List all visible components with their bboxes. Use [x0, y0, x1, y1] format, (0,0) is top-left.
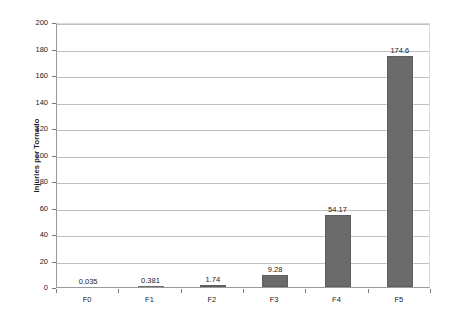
- gridline: [57, 210, 429, 211]
- gridline: [57, 51, 429, 52]
- plot-area: 0.0350.3811.749.2854.17174.6: [56, 23, 430, 288]
- gridline: [57, 24, 429, 25]
- data-label: 54.17: [328, 205, 347, 214]
- y-axis-tick-label: 80: [20, 177, 48, 186]
- y-axis-tick-label: 0: [20, 283, 48, 292]
- y-axis-tick-label: 40: [20, 230, 48, 239]
- gridline: [57, 130, 429, 131]
- x-axis-tick-label: F0: [83, 295, 92, 304]
- y-axis-tick-label: 200: [20, 18, 48, 27]
- y-axis-tick-label: 60: [20, 204, 48, 213]
- gridline: [57, 104, 429, 105]
- data-label: 0.035: [79, 277, 98, 286]
- x-axis-tick-mark: [368, 289, 369, 293]
- bar[interactable]: [325, 215, 351, 287]
- gridline: [57, 236, 429, 237]
- x-axis-tick-label: F2: [207, 295, 216, 304]
- bar[interactable]: [262, 275, 288, 287]
- y-axis-tick-label: 100: [20, 151, 48, 160]
- data-label: 9.28: [268, 265, 283, 274]
- y-axis-tick-label: 160: [20, 71, 48, 80]
- x-axis-tick-label: F4: [332, 295, 341, 304]
- y-axis-tick-label: 20: [20, 257, 48, 266]
- gridline: [57, 157, 429, 158]
- x-axis-tick-mark: [243, 289, 244, 293]
- x-axis-tick-mark: [305, 289, 306, 293]
- x-axis-tick-mark: [56, 289, 57, 293]
- bar[interactable]: [387, 56, 413, 287]
- y-axis-tick-label: 140: [20, 98, 48, 107]
- x-axis-tick-label: F1: [145, 295, 154, 304]
- gridline: [57, 263, 429, 264]
- x-axis-tick-label: F5: [394, 295, 403, 304]
- x-axis-tick-mark: [181, 289, 182, 293]
- data-label: 1.74: [206, 275, 221, 284]
- y-axis-tick-label: 120: [20, 124, 48, 133]
- x-axis-tick-mark: [430, 289, 431, 293]
- bar[interactable]: [200, 285, 226, 287]
- x-axis-tick-mark: [118, 289, 119, 293]
- data-label: 174.6: [390, 46, 409, 55]
- data-label: 0.381: [141, 276, 160, 285]
- bar[interactable]: [138, 286, 164, 287]
- bar-chart: Injuries per Tornado 0204060801001201401…: [0, 0, 453, 315]
- x-axis-tick-label: F3: [270, 295, 279, 304]
- y-axis-tick-label: 180: [20, 45, 48, 54]
- gridline: [57, 183, 429, 184]
- gridline: [57, 77, 429, 78]
